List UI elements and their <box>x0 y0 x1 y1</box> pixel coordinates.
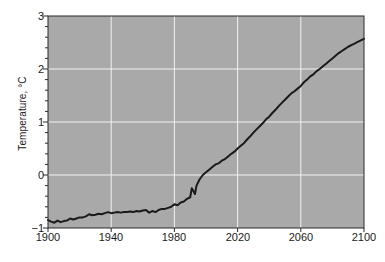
temperature-projection-chart: Temperature, °C 3 2 1 0 −1 1900 1940 198… <box>0 0 385 262</box>
plot-canvas <box>0 0 385 262</box>
